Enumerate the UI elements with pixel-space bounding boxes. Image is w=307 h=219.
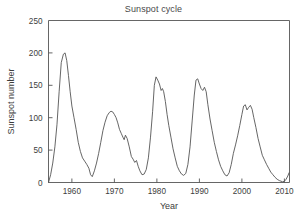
x-tick-label: 1990	[190, 187, 209, 196]
x-tick-label: 2010	[275, 187, 294, 196]
y-axis-tick-labels: 050100150200250	[29, 17, 43, 188]
y-tick-label: 150	[29, 81, 43, 90]
x-tick-label: 1960	[63, 187, 82, 196]
y-tick-label: 50	[33, 146, 43, 155]
y-tick-label: 250	[29, 17, 43, 26]
data-series-line	[49, 53, 290, 183]
axis-frame	[49, 21, 290, 183]
x-tick-label: 1980	[148, 187, 167, 196]
plot-area: 050100150200250 196019701980199020002010…	[0, 0, 307, 219]
y-axis-title: Sunspot number	[6, 68, 16, 134]
x-tick-label: 1970	[105, 187, 124, 196]
y-tick-label: 100	[29, 114, 43, 123]
y-tick-label: 200	[29, 49, 43, 58]
x-axis-ticks	[72, 179, 285, 183]
sunspot-chart-figure: Sunspot cycle 050100150200250 1960197019…	[0, 0, 307, 219]
y-axis-ticks	[49, 53, 53, 150]
y-tick-label: 0	[38, 179, 43, 188]
x-axis-title: Year	[160, 201, 178, 211]
x-axis-tick-labels: 196019701980199020002010	[63, 187, 294, 196]
x-tick-label: 2000	[233, 187, 252, 196]
